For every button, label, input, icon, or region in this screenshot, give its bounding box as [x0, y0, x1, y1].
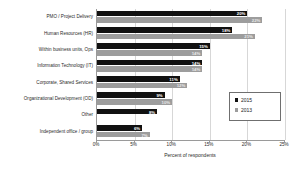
bar-2013: 21% [97, 34, 255, 40]
category-label: Human Resources (HR) [44, 31, 93, 37]
bar-value-label: 10% [162, 99, 171, 104]
bar-value-label: 14% [192, 67, 201, 72]
x-axis-line [96, 140, 284, 141]
legend-item[interactable]: 2015 [235, 97, 280, 103]
bar-value-label: 15% [199, 44, 208, 49]
bar-value-label: 18% [222, 27, 231, 32]
bar-2015: 9% [97, 92, 165, 98]
x-axis-tick [134, 140, 135, 143]
bar-value-label: 20% [237, 11, 246, 16]
bar-value-label: 21% [244, 34, 253, 39]
bar-2015: 15% [97, 43, 210, 49]
category-label: Other [82, 112, 94, 118]
x-axis-tick [246, 140, 247, 143]
chart-legend: 20152013 [229, 92, 281, 121]
bar-2015: 18% [97, 27, 232, 33]
legend-swatch-icon [235, 108, 238, 111]
bar-chart: PMO / Project Delivery20%22%Human Resour… [0, 0, 302, 174]
bar-value-label: 22% [252, 17, 261, 22]
bar-value-label: 11% [169, 76, 177, 81]
bar-value-label: 8% [149, 109, 155, 114]
bar-row: Within business units, Ops15%14% [97, 42, 284, 58]
legend-item[interactable]: 2013 [235, 107, 280, 113]
bar-2015: 20% [97, 11, 247, 17]
bar-row: PMO / Project Delivery20%22% [97, 9, 284, 25]
x-axis-tick [284, 140, 285, 143]
bar-2013: 10% [97, 99, 172, 105]
gridline [285, 9, 286, 140]
bar-2013: 22% [97, 17, 262, 23]
x-axis-tick [96, 140, 97, 143]
bar-row: Independent office / group6%7% [97, 124, 284, 140]
bar-value-label: 6% [134, 126, 140, 131]
bar-2015: 8% [97, 109, 157, 115]
x-axis-title: Percent of respondents [96, 152, 284, 158]
category-label: Within business units, Ops [39, 47, 93, 53]
x-axis-tick [171, 140, 172, 143]
category-label: Independent office / group [40, 129, 93, 135]
bar-value-label: 14% [192, 50, 201, 55]
category-label: Corporate, Shared Services [36, 80, 93, 86]
bar-row: Corporate, Shared Services11%12% [97, 75, 284, 91]
bar-value-label: 9% [156, 93, 162, 98]
category-label: Information Technology (IT) [37, 63, 93, 69]
bar-row: Human Resources (HR)18%21% [97, 25, 284, 41]
bar-2013: 14% [97, 66, 202, 72]
legend-swatch-icon [235, 98, 238, 101]
category-label: PMO / Project Delivery [47, 14, 93, 20]
bar-2013: 14% [97, 50, 202, 56]
bar-row: Information Technology (IT)14%14% [97, 58, 284, 74]
bar-2013: 12% [97, 83, 187, 89]
category-label: Organizational Development (OD) [24, 96, 93, 102]
bar-2015: 6% [97, 125, 142, 131]
x-axis-tick [209, 140, 210, 143]
legend-label: 2015 [241, 97, 252, 103]
bar-value-label: 7% [141, 132, 147, 137]
bar-2015: 14% [97, 60, 202, 66]
bar-2013: 7% [97, 132, 150, 138]
x-axis-tick-labels: 0%5%10%15%20%25% [96, 142, 284, 151]
bar-value-label: 14% [192, 60, 201, 65]
bar-value-label: 12% [177, 83, 186, 88]
legend-label: 2013 [241, 107, 252, 113]
bar-2015: 11% [97, 76, 180, 82]
